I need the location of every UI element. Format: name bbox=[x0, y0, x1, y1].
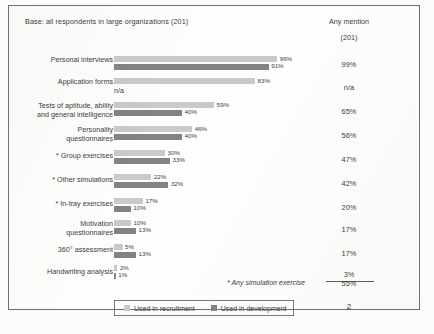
bar-value-recruitment-0: 96% bbox=[277, 55, 292, 62]
bar-group-other-simulations: 22% 32% bbox=[114, 174, 168, 189]
bar-group-group-exercises: 30% 33% bbox=[114, 150, 170, 165]
bar-value-recruitment-6: 17% bbox=[143, 197, 158, 204]
bar-development-motivation-questionnaires: 13% bbox=[114, 228, 136, 234]
any-mention-value-5: 42% bbox=[309, 179, 389, 188]
bar-group-motivation-questionnaires: 10% 13% bbox=[114, 220, 136, 235]
category-label-handwriting-analysis: Handwriting analysis bbox=[0, 268, 113, 277]
na-marker-development-application-forms: n/a bbox=[114, 86, 124, 95]
any-mention-column-header: Any mention (201) bbox=[309, 17, 389, 42]
legend-swatch-recruitment-icon bbox=[124, 305, 130, 311]
footnote-label: * Any simulation exercise bbox=[227, 279, 305, 286]
bar-recruitment-group-exercises: 30% bbox=[114, 150, 165, 156]
category-label-tests-of-aptitude: Tests of aptitude, ability and general i… bbox=[0, 102, 113, 119]
footnote-value: 55% bbox=[309, 279, 389, 288]
any-mention-value-0: 99% bbox=[309, 60, 389, 69]
legend-label-development: Used in development bbox=[221, 305, 287, 312]
bar-development-personality-questionnaires: 40% bbox=[114, 134, 182, 140]
bar-recruitment-personal-interviews: 96% bbox=[114, 56, 277, 62]
bar-development-group-exercises: 33% bbox=[114, 158, 170, 164]
legend-item-development: Used in development bbox=[211, 305, 287, 312]
any-mention-value-4: 47% bbox=[309, 155, 389, 164]
bar-group-handwriting-analysis: 2% 1% bbox=[114, 265, 117, 280]
bar-value-recruitment-3: 46% bbox=[192, 125, 207, 132]
category-label-personality-questionnaires: Personality questionnaires bbox=[0, 126, 113, 143]
bar-value-development-6: 10% bbox=[131, 204, 146, 211]
chart-frame: Base: all respondents in large organizat… bbox=[8, 5, 420, 310]
legend-label-recruitment: Used in recruitment bbox=[134, 305, 195, 312]
bar-value-recruitment-9: 2% bbox=[117, 264, 128, 271]
bar-recruitment-tests-of-aptitude: 59% bbox=[114, 102, 214, 108]
bar-group-360-assessment: 5% 13% bbox=[114, 244, 136, 259]
page-number: 2 bbox=[309, 302, 389, 311]
category-label-motivation-questionnaires: Motivation questionnaires bbox=[0, 220, 113, 237]
category-label-in-tray-exercises: * In-tray exercises bbox=[0, 200, 113, 209]
bar-value-recruitment-1: 83% bbox=[255, 77, 270, 84]
any-mention-value-1: n/a bbox=[309, 83, 389, 92]
any-mention-value-6: 20% bbox=[309, 203, 389, 212]
scanned-page: Base: all respondents in large organizat… bbox=[0, 0, 434, 334]
bar-value-recruitment-8: 5% bbox=[123, 243, 134, 250]
bar-recruitment-handwriting-analysis: 2% bbox=[114, 265, 117, 271]
bar-recruitment-application-forms: 83% bbox=[114, 78, 255, 84]
bar-development-in-tray-exercises: 10% bbox=[114, 206, 131, 212]
bar-recruitment-in-tray-exercises: 17% bbox=[114, 198, 143, 204]
category-label-personal-interviews: Personal interviews bbox=[0, 56, 113, 65]
any-mention-value-3: 56% bbox=[309, 131, 389, 140]
bar-value-development-0: 91% bbox=[269, 62, 284, 69]
category-label-group-exercises: * Group exercises bbox=[0, 152, 113, 161]
bar-value-recruitment-2: 59% bbox=[214, 101, 229, 108]
bar-group-personal-interviews: 96% 91% bbox=[114, 56, 277, 71]
bar-group-in-tray-exercises: 17% 10% bbox=[114, 198, 143, 213]
bar-recruitment-motivation-questionnaires: 10% bbox=[114, 220, 131, 226]
category-label-other-simulations: * Other simulations bbox=[0, 176, 113, 185]
bar-recruitment-personality-questionnaires: 46% bbox=[114, 126, 192, 132]
any-mention-value-8: 17% bbox=[309, 249, 389, 258]
bar-group-tests-of-aptitude: 59% 40% bbox=[114, 102, 214, 117]
bar-recruitment-360-assessment: 5% bbox=[114, 244, 123, 250]
legend-swatch-development-icon bbox=[211, 305, 217, 311]
any-mention-base: (201) bbox=[309, 33, 389, 42]
bar-group-application-forms: 83% bbox=[114, 78, 255, 86]
category-label-application-forms: Application forms bbox=[0, 78, 113, 87]
any-mention-value-2: 65% bbox=[309, 107, 389, 116]
bar-development-tests-of-aptitude: 40% bbox=[114, 110, 182, 116]
bar-value-development-8: 13% bbox=[136, 250, 151, 257]
bar-development-360-assessment: 13% bbox=[114, 252, 136, 258]
bar-value-development-3: 40% bbox=[182, 132, 197, 139]
bar-recruitment-other-simulations: 22% bbox=[114, 174, 151, 180]
bar-development-handwriting-analysis: 1% bbox=[114, 273, 116, 279]
bar-value-development-7: 13% bbox=[136, 226, 151, 233]
bar-development-personal-interviews: 91% bbox=[114, 64, 269, 70]
bar-value-development-4: 33% bbox=[170, 156, 185, 163]
any-mention-value-7: 17% bbox=[309, 225, 389, 234]
bar-value-development-2: 40% bbox=[182, 108, 197, 115]
bar-value-recruitment-7: 10% bbox=[131, 219, 146, 226]
bar-value-recruitment-4: 30% bbox=[165, 149, 180, 156]
bar-development-other-simulations: 32% bbox=[114, 182, 168, 188]
bar-value-recruitment-5: 22% bbox=[151, 173, 166, 180]
legend-item-recruitment: Used in recruitment bbox=[124, 305, 195, 312]
chart-legend: Used in recruitment Used in development bbox=[114, 300, 294, 316]
bar-value-development-9: 1% bbox=[116, 271, 127, 278]
bar-group-personality-questionnaires: 46% 40% bbox=[114, 126, 192, 141]
any-mention-title: Any mention bbox=[309, 17, 389, 26]
bar-value-development-5: 32% bbox=[168, 180, 183, 187]
base-note: Base: all respondents in large organizat… bbox=[25, 17, 188, 26]
category-label-360-assessment: 360° assessment bbox=[0, 246, 113, 255]
